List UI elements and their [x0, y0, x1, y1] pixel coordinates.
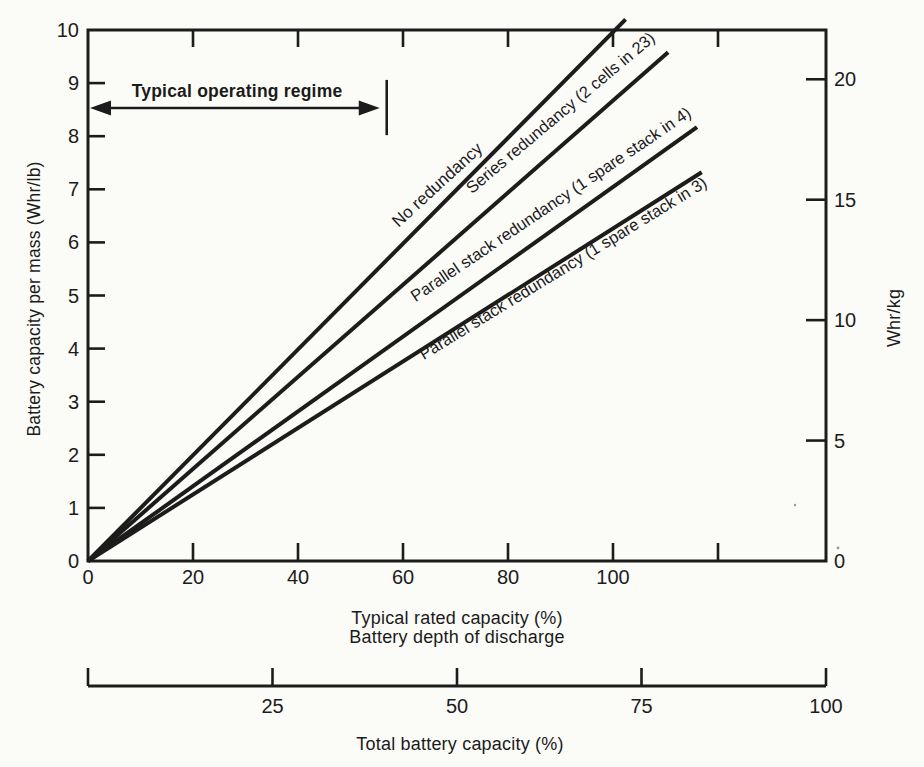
y-left-tick-label: 10 — [57, 19, 79, 41]
secondary-tick-label: 50 — [446, 695, 468, 717]
x-tick-label: 40 — [287, 566, 309, 588]
y-left-tick-label: 5 — [68, 285, 79, 307]
x-tick-label: 100 — [596, 566, 629, 588]
battery-redundancy-figure: 02040608010001234567891005101520No redun… — [0, 0, 924, 767]
x-axis-title-line2: Battery depth of discharge — [349, 628, 564, 647]
y-left-tick-label: 7 — [68, 178, 79, 200]
y-left-tick-label: 3 — [68, 391, 79, 413]
x-tick-label: 20 — [182, 566, 204, 588]
x-axis-title-line1: Typical rated capacity (%) — [349, 609, 564, 628]
secondary-tick-label: 100 — [809, 695, 842, 717]
x-tick-label: 60 — [392, 566, 414, 588]
y-left-tick-label: 4 — [68, 338, 79, 360]
secondary-x-axis-title: Total battery capacity (%) — [356, 734, 563, 755]
scan-speckle — [794, 504, 796, 506]
x-axis-title: Typical rated capacity (%) Battery depth… — [349, 609, 564, 647]
y-left-tick-label: 2 — [68, 444, 79, 466]
series-line-2 — [88, 127, 697, 561]
regime-arrowhead-right — [359, 101, 380, 116]
y-left-tick-label: 0 — [68, 550, 79, 572]
y-left-tick-label: 6 — [68, 231, 79, 253]
x-tick-label: 80 — [497, 566, 519, 588]
operating-regime-annotation-text: Typical operating regime — [132, 81, 343, 102]
x-tick-label: 0 — [82, 566, 93, 588]
y-right-tick-label: 20 — [834, 68, 856, 90]
regime-arrowhead-left — [90, 101, 111, 116]
chart-canvas: 02040608010001234567891005101520No redun… — [0, 0, 924, 767]
series-line-1 — [88, 52, 668, 561]
series-label-1: Series redundancy (2 cells in 23) — [462, 28, 658, 196]
y-left-tick-label: 9 — [68, 72, 79, 94]
y-left-tick-label: 1 — [68, 497, 79, 519]
y-right-tick-label: 5 — [834, 430, 845, 452]
y-right-tick-label: 15 — [834, 189, 856, 211]
secondary-tick-label: 75 — [630, 695, 652, 717]
y-right-tick-label: 0 — [834, 550, 845, 572]
y-left-tick-label: 8 — [68, 125, 79, 147]
y-right-tick-label: 10 — [834, 309, 856, 331]
y-axis-right-title: Whr/kg — [884, 289, 905, 347]
y-axis-left-title: Battery capacity per mass (Whr/lb) — [24, 161, 45, 436]
secondary-tick-label: 25 — [261, 695, 283, 717]
scan-speckle — [837, 547, 840, 550]
